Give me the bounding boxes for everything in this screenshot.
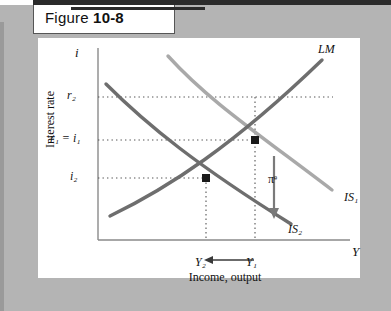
x-tick-Y2-text: Y₂ — [195, 255, 206, 269]
y-axis-symbol: i — [75, 45, 79, 61]
curve-label-is1-text: IS₁ — [344, 190, 358, 204]
y-tick-label-r1-i1: r₁ = i₁ — [50, 131, 80, 146]
curve-label-lm: LM — [318, 42, 335, 57]
is-lm-chart — [38, 38, 360, 278]
x-tick-label-Y2: Y₂ — [195, 255, 206, 270]
y-tick-r1-i1-text: r₁ = i₁ — [50, 131, 80, 145]
y-tick-label-i2: i₂ — [70, 169, 78, 184]
y-axis-caption: Interest rate — [43, 65, 58, 175]
curve-label-is2: IS₂ — [288, 222, 302, 237]
x-axis-caption: Income, output — [150, 270, 300, 285]
figure-left-shadow — [0, 22, 4, 311]
curve-label-is2-text: IS₂ — [288, 222, 302, 236]
figure-title-number: 10-8 — [93, 9, 124, 26]
curve-lm — [110, 60, 322, 216]
y-tick-i2-text: i₂ — [70, 169, 78, 183]
x-tick-label-Y1: Y₁ — [246, 255, 257, 270]
page-title: Figure 10-8 — [45, 9, 124, 26]
figure-title-prefix: Figure — [45, 9, 93, 26]
expected-inflation-label: πᵉ — [268, 172, 277, 187]
x-tick-Y1-text: Y₁ — [246, 255, 257, 269]
x-axis-symbol: Y — [352, 244, 359, 260]
equilibrium-marker-new — [202, 174, 210, 182]
figure-root: Figure 10-8 Interest rate i Y — [0, 0, 391, 311]
curve-label-is1: IS₁ — [344, 190, 358, 205]
equilibrium-marker-initial — [251, 136, 259, 144]
y-tick-r2-text: r₂ — [67, 88, 76, 102]
y-tick-label-r2: r₂ — [67, 88, 76, 103]
